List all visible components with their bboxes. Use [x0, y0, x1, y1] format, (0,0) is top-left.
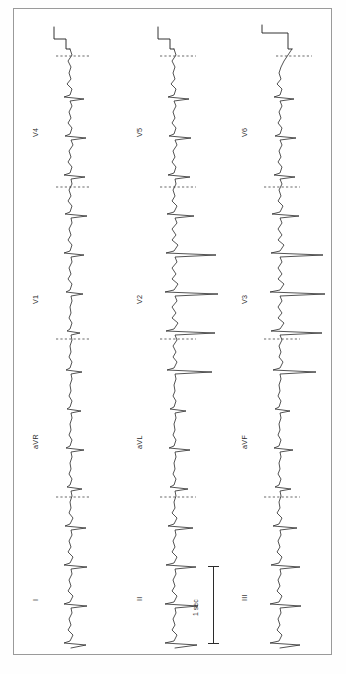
ecg-trace-column-3	[226, 9, 333, 656]
ecg-trace-column-1	[14, 9, 120, 656]
time-scale-bar: 1 sec	[196, 566, 222, 644]
ecg-column-1: V4 V1 aVR I	[14, 9, 120, 656]
ecg-page: V4 V1 aVR I V5 V2 aVL II	[0, 0, 346, 674]
ecg-trace-column-2	[120, 9, 226, 656]
scale-bar-label: 1 sec	[192, 599, 199, 616]
ecg-frame: V4 V1 aVR I V5 V2 aVL II	[13, 8, 332, 655]
ecg-column-3: V6 V3 aVF III	[226, 9, 333, 656]
ecg-column-2: V5 V2 aVL II	[120, 9, 226, 656]
scale-bar-line	[213, 566, 214, 644]
scale-bar-cap-bottom	[208, 643, 219, 644]
